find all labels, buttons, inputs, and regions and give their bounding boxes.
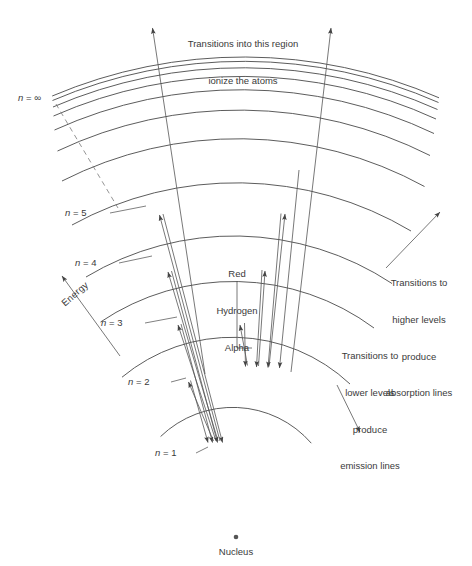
leader-n-4: [119, 256, 152, 263]
emission-annotation-line-3: produce: [322, 424, 418, 436]
energy-level-diagram: Transitions into this region ionize the …: [0, 0, 472, 566]
nucleus-label: Nucleus: [196, 546, 276, 558]
level-label-n-1: n = 1: [155, 447, 176, 459]
emission-annotation-line-1: Transitions to: [322, 350, 418, 362]
nucleus-dot: [234, 535, 239, 540]
leader-n-5: [110, 206, 146, 213]
level-label-n-infinity-eq: =: [23, 92, 34, 103]
ionize-annotation: Transitions into this region ionize the …: [173, 14, 313, 112]
halpha-annotation: Red Hydrogen Alpha: [200, 244, 274, 378]
emission-arrow-6-to-2: [280, 170, 300, 368]
halpha-annotation-line-2: Hydrogen: [200, 305, 274, 317]
level-label-n-2: n = 2: [128, 376, 149, 388]
level-label-n-4-value: 4: [91, 257, 96, 268]
ionize-annotation-line-2: ionize the atoms: [173, 75, 313, 87]
level-label-n-5: n = 5: [65, 207, 86, 219]
leader-n-3: [145, 317, 177, 323]
level-label-n-3: n = 3: [101, 317, 122, 329]
level-label-n-infinity: n = ∞: [18, 92, 41, 104]
level-label-n-2-eq: =: [133, 376, 144, 387]
level-label-n-3-eq: =: [106, 317, 117, 328]
level-label-n-5-value: 5: [81, 207, 86, 218]
emission-annotation-line-2: lower levels: [322, 387, 418, 399]
halpha-annotation-line-3: Alpha: [200, 342, 274, 354]
leader-n-2: [171, 378, 186, 382]
arc-n-5: [72, 183, 411, 231]
absorption-annotation-line-2: higher levels: [371, 314, 467, 326]
level-label-n-infinity-value: ∞: [34, 92, 41, 103]
ionize-annotation-line-1: Transitions into this region: [173, 38, 313, 50]
absorption-annotation-line-1: Transitions to: [371, 277, 467, 289]
level-label-n-2-value: 2: [144, 376, 149, 387]
leader-n-1: [196, 447, 208, 453]
level-label-n-4-eq: =: [80, 257, 91, 268]
level-label-n-5-eq: =: [70, 207, 81, 218]
arc-n-7: [58, 110, 431, 155]
emission-annotation-line-4: emission lines: [322, 460, 418, 472]
arc-n-6: [62, 139, 425, 187]
emission-annotation: Transitions to lower levels produce emis…: [322, 326, 418, 497]
n-infinity-leader-line: [56, 104, 118, 208]
level-label-n-3-value: 3: [117, 317, 122, 328]
arc-n-1: [161, 407, 312, 443]
level-label-n-1-value: 1: [171, 447, 176, 458]
level-label-n-4: n = 4: [75, 257, 96, 269]
level-label-n-1-eq: =: [160, 447, 171, 458]
halpha-annotation-line-1: Red: [200, 268, 274, 280]
